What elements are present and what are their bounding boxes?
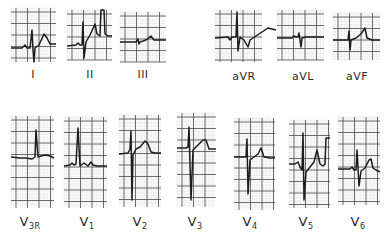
lead-label-v2: V2 — [133, 214, 148, 231]
lead-label-v4: V4 — [243, 214, 258, 231]
lead-panel-v3r — [11, 116, 54, 208]
lead-label-ii: II — [86, 68, 94, 81]
lead-panel-avl — [277, 10, 324, 60]
lead-label-v3r: V3R — [19, 214, 40, 231]
lead-panel-v2 — [119, 115, 161, 207]
lead-label-v3: V3 — [188, 214, 203, 231]
lead-label-i: I — [31, 68, 35, 81]
lead-panel-v6 — [338, 117, 380, 205]
lead-panel-v3 — [177, 113, 216, 207]
lead-panel-i — [11, 8, 56, 62]
ecg-figure — [0, 0, 391, 248]
lead-panel-v5 — [289, 120, 330, 208]
lead-panel-v1 — [64, 117, 107, 208]
lead-panel-ii — [67, 10, 112, 60]
lead-panel-avr — [215, 10, 276, 62]
lead-label-avr: aVR — [232, 70, 255, 83]
lead-panel-avf — [333, 13, 380, 60]
lead-label-iii: III — [137, 68, 148, 81]
lead-panel-v4 — [234, 118, 275, 210]
lead-label-avl: aVL — [292, 70, 314, 83]
lead-label-avf: aVF — [346, 70, 368, 83]
lead-label-v5: V5 — [299, 214, 314, 231]
lead-panel-iii — [120, 12, 166, 62]
lead-label-v6: V6 — [351, 214, 366, 231]
lead-label-v1: V1 — [80, 214, 95, 231]
